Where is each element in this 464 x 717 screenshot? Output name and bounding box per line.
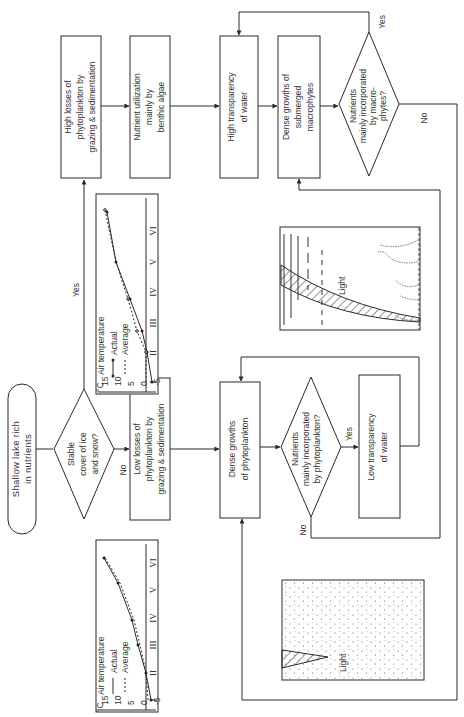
chart1-xtick-V: V	[148, 258, 158, 265]
chart1-legend-dot	[112, 359, 115, 362]
chart2-ytick-10: 10	[113, 695, 123, 705]
chart-air-temp-yes: °C 15 10 5 0 -5 Air temperature Actual A…	[95, 194, 162, 394]
nutrient-benthic-line2: mainly by	[144, 88, 154, 125]
decision-macro-line1: Nutrients	[348, 89, 358, 123]
decision-ice-cover: Stable cover of ice and snow?	[54, 389, 114, 519]
dense-macrophytes-line3: macrophytes	[305, 83, 315, 132]
chart1-xtick-I: I	[148, 381, 158, 384]
clear-water-light-label: Light	[337, 276, 347, 295]
decision-macrophytes: Nutrients mainly incorporated by macro- …	[339, 32, 399, 176]
chart1-xtick-II: II	[148, 350, 158, 356]
start-node: Shallow lake rich in nutrients	[8, 384, 36, 534]
chart2-ytick-5: 5	[126, 700, 136, 705]
illustration-turbid-water: Light	[282, 580, 424, 680]
chart1-ytick-10: 10	[113, 376, 123, 386]
chart1-xtick-III: III	[148, 319, 158, 328]
chart2-xtick-I: I	[148, 699, 158, 702]
flowchart-canvas: Shallow lake rich in nutrients Stable co…	[0, 0, 464, 717]
edge-phyto-no	[311, 517, 338, 538]
box-low-transparency: Low transparency of water	[359, 375, 400, 518]
label-ice-yes: Yes	[71, 283, 81, 297]
chart2-title: Air temperature	[96, 636, 106, 695]
start-line1: Shallow lake rich	[10, 421, 21, 497]
decision-macro-line4: phytes?	[378, 91, 388, 121]
low-losses-line2: phytoplankton by	[144, 416, 154, 481]
chart1-legend-average: Average	[120, 323, 130, 355]
label-phyto-no: No	[298, 524, 308, 535]
chart2-xtick-IV: IV	[148, 613, 158, 623]
box-low-losses: Low losses of phytoplankton by grazing &…	[130, 378, 170, 520]
nutrient-benthic-line3: benthic algae	[156, 81, 166, 132]
label-ice-no: No	[118, 464, 128, 475]
high-losses-line3: grazing & sedimentation	[87, 61, 97, 152]
low-transparency-line1: Low transparency	[366, 413, 376, 481]
low-transparency-line2: of water	[379, 432, 389, 462]
high-transparency-line2: of water	[239, 92, 249, 122]
illustration-clear-water: Light	[280, 227, 420, 330]
decision-macro-line3: by macro-	[368, 87, 378, 125]
chart1-legend-dot	[112, 375, 115, 378]
decision-macro-line2: mainly incorporated	[358, 69, 368, 143]
high-losses-line2: phytoplankton by	[75, 74, 85, 139]
chart2-legend-actual: Actual	[109, 649, 119, 673]
box-nutrient-benthic: Nutrient utilization mainly by benthic a…	[130, 36, 170, 178]
decision-ice-line2: cover of ice	[78, 432, 88, 476]
box-high-losses: High losses of phytoplankton by grazing …	[61, 36, 101, 178]
chart1-ytick-15: 15	[100, 376, 110, 386]
chart2-xtick-III: III	[148, 641, 158, 650]
chart2-xtick-V: V	[148, 586, 158, 593]
box-high-transparency: High transparency of water	[220, 36, 258, 178]
chart2-xtick-VI: VI	[148, 558, 158, 568]
dense-phyto-line2: of phytoplankton	[240, 418, 250, 481]
turbid-water-light-label: Light	[338, 653, 348, 672]
box-dense-macrophytes: Dense growths of submerged macrophytes	[278, 36, 320, 178]
decision-phytoplankton: Nutrients mainly incorporated by phytopl…	[281, 377, 341, 517]
decision-phyto-line1: Nutrients	[290, 432, 300, 466]
decision-ice-line3: and snow?	[90, 433, 100, 474]
label-phyto-yes: Yes	[344, 427, 354, 441]
chart1-ytick-5: 5	[126, 381, 136, 386]
box-dense-phytoplankton: Dense growths of phytoplankton	[220, 382, 260, 518]
low-losses-line1: Low losses of	[132, 423, 142, 475]
chart1-legend-actual: Actual	[109, 331, 119, 355]
dense-macrophytes-line2: submerged	[293, 85, 303, 128]
chart1-title: Air temperature	[96, 316, 106, 375]
high-transparency-line1: High transparency	[226, 72, 236, 142]
label-macro-yes: Yes	[377, 15, 387, 29]
dense-phyto-line1: Dense growths	[227, 421, 237, 478]
decision-ice-line1: Stable	[66, 442, 76, 466]
chart-air-temp-no: °C 15 10 5 0 -5 Air temperature Actual A…	[95, 540, 162, 712]
low-losses-line3: grazing & sedimentation	[156, 403, 166, 494]
dense-macrophytes-line1: Dense growths of	[281, 73, 291, 140]
decision-phyto-line2: mainly incorporated	[301, 412, 311, 486]
label-macro-no: No	[419, 112, 429, 123]
chart1-xtick-IV: IV	[148, 287, 158, 297]
chart2-xtick-II: II	[148, 670, 158, 676]
chart2-legend-average: Average	[120, 641, 130, 673]
edge-macro-yes-loop	[239, 12, 369, 35]
nutrient-benthic-line1: Nutrient utilization	[132, 73, 142, 141]
chart2-ytick-15: 15	[100, 695, 110, 705]
chart1-xtick-VI: VI	[148, 226, 158, 236]
high-losses-line1: High losses of	[63, 80, 73, 134]
start-line2: in nutrients	[22, 434, 33, 484]
decision-phyto-line3: by phytoplankton?	[312, 414, 322, 483]
